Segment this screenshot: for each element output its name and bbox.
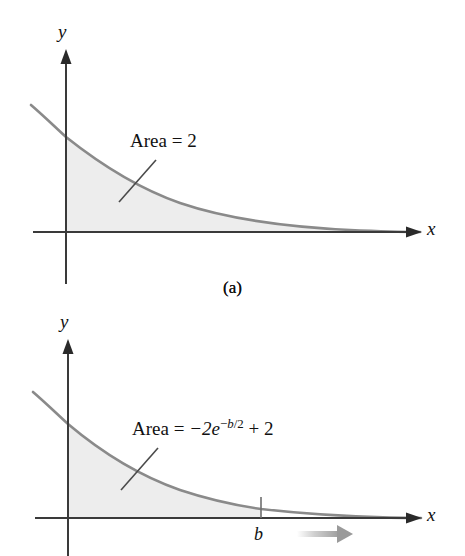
area-annotation-b-exponent: −b/2: [220, 416, 244, 431]
area-annotation-b-lead: Area =: [132, 418, 184, 439]
exponent-divisor: /2: [234, 416, 244, 431]
x-axis-arrowhead-a: [406, 227, 422, 238]
x-axis-label-b: x: [427, 505, 435, 524]
x-axis-arrowhead-b: [406, 513, 422, 524]
area-annotation-a: Area = 2: [130, 131, 197, 150]
area-annotation-b-term1: −2e: [189, 418, 220, 439]
y-axis-label-a: y: [58, 22, 66, 41]
motion-arrow-icon: [297, 525, 353, 543]
area-annotation-b-term2: + 2: [248, 418, 273, 439]
area-annotation-b: Area = −2e−b/2 + 2: [132, 418, 273, 438]
y-axis-arrowhead-a: [61, 49, 72, 64]
panel-a-plot: [0, 0, 465, 300]
y-axis-arrowhead-b: [63, 339, 74, 354]
x-axis-label-a: x: [427, 219, 435, 238]
panel-caption-a-label: (a): [0, 278, 465, 298]
figure-panel-b: y x b Area = −2e−b/2 + 2: [0, 300, 465, 556]
y-axis-label-b: y: [60, 312, 68, 331]
bound-tick-label-b: b: [254, 524, 263, 545]
figure-panel-a: y x Area = 2 (a): [0, 0, 465, 300]
